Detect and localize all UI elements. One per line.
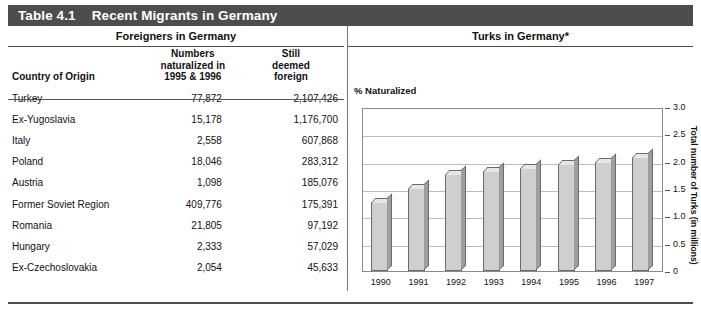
y-tick-mark-2.0	[665, 163, 670, 164]
table-figure-page: Table 4.1 Recent Migrants in Germany For…	[0, 0, 701, 313]
chart-plot-area	[362, 108, 663, 272]
turks-in-germany-chart: % Naturalized 00.51.01.52.02.53.0 Total …	[348, 48, 693, 291]
cell-naturalized: 2,054	[142, 257, 244, 278]
x-tick-1991: 1991	[398, 277, 438, 287]
cell-naturalized: 15,178	[142, 109, 244, 130]
cell-foreign: 1,176,700	[244, 109, 344, 130]
y-tick-mark-2.5	[665, 135, 670, 136]
x-tick-1996: 1996	[587, 277, 627, 287]
y-tick-mark-0.5	[665, 245, 670, 246]
y-tick-mark-1.0	[665, 217, 670, 218]
y-tick-mark-1.5	[665, 190, 670, 191]
migrants-table: Country of Origin Numbers naturalized in…	[8, 48, 344, 278]
cell-naturalized: 18,046	[142, 151, 244, 172]
cell-country: Italy	[8, 130, 142, 151]
cell-foreign: 283,312	[244, 151, 344, 172]
bar-wrap-1997	[632, 109, 654, 271]
left-panel-header: Foreigners in Germany	[8, 26, 344, 46]
cell-foreign: 175,391	[244, 193, 344, 214]
bar-1996	[595, 162, 612, 271]
cell-country: Ex-Czechoslovakia	[8, 257, 142, 278]
cell-foreign: 185,076	[244, 172, 344, 193]
page-title: Recent Migrants in Germany	[92, 8, 278, 23]
x-tick-1990: 1990	[361, 277, 401, 287]
table-header-row: Country of Origin Numbers naturalized in…	[8, 48, 344, 88]
cell-foreign: 97,192	[244, 215, 344, 236]
chart-bars	[363, 109, 662, 271]
x-tick-1993: 1993	[474, 277, 514, 287]
bar-wrap-1996	[595, 109, 617, 271]
table-header-underline	[8, 99, 344, 100]
left-panel-header-label: Foreigners in Germany	[116, 30, 236, 42]
left-header-rule	[8, 46, 344, 47]
cell-naturalized: 1,098	[142, 172, 244, 193]
bar-1991	[408, 188, 425, 271]
table-row: Ex-Czechoslovakia 2,054 45,633	[8, 257, 344, 278]
y-tick-mark-3.0	[665, 108, 670, 109]
cell-country: Austria	[8, 172, 142, 193]
bar-wrap-1991	[408, 109, 430, 271]
bar-wrap-1992	[445, 109, 467, 271]
bar-wrap-1990	[371, 109, 393, 271]
bar-1995	[558, 164, 575, 271]
cell-naturalized: 2,333	[142, 236, 244, 257]
cell-naturalized: 2,558	[142, 130, 244, 151]
x-tick-1997: 1997	[624, 277, 664, 287]
bar-wrap-1994	[520, 109, 542, 271]
bar-1997	[632, 157, 649, 271]
table-row: Romania 21,805 97,192	[8, 215, 344, 236]
table-row: Austria 1,098 185,076	[8, 172, 344, 193]
cell-naturalized: 21,805	[142, 215, 244, 236]
bar-1990	[371, 202, 388, 271]
table-row: Poland 18,046 283,312	[8, 151, 344, 172]
column-header-country: Country of Origin	[8, 48, 142, 88]
right-header-rule	[348, 46, 693, 47]
column-header-naturalized: Numbers naturalized in 1995 & 1996	[142, 48, 244, 88]
y-tick-0: 0	[673, 266, 697, 276]
cell-foreign: 45,633	[244, 257, 344, 278]
table-title-bar: Table 4.1 Recent Migrants in Germany	[8, 5, 693, 26]
chart-y-axis-label: Total number of Turks (in millions)	[689, 126, 699, 265]
table-row: Former Soviet Region 409,776 175,391	[8, 193, 344, 214]
cell-foreign: 57,029	[244, 236, 344, 257]
x-tick-1995: 1995	[549, 277, 589, 287]
bar-1993	[483, 171, 500, 271]
right-panel-header: Turks in Germany*	[348, 26, 693, 46]
table-row: Hungary 2,333 57,029	[8, 236, 344, 257]
cell-country: Hungary	[8, 236, 142, 257]
bar-wrap-1995	[558, 109, 580, 271]
cell-country: Poland	[8, 151, 142, 172]
y-tick-mark-0	[665, 272, 670, 273]
cell-naturalized: 409,776	[142, 193, 244, 214]
cell-country: Former Soviet Region	[8, 193, 142, 214]
table-number: Table 4.1	[18, 8, 76, 23]
table-row: Ex-Yugoslavia 15,178 1,176,700	[8, 109, 344, 130]
x-tick-1994: 1994	[511, 277, 551, 287]
x-tick-1992: 1992	[436, 277, 476, 287]
cell-country: Romania	[8, 215, 142, 236]
y-tick-3.0: 3.0	[673, 102, 697, 112]
bar-1992	[445, 174, 462, 271]
figure-bottom-rule	[8, 302, 693, 304]
table-row: Italy 2,558 607,868	[8, 130, 344, 151]
right-panel-header-label: Turks in Germany*	[472, 30, 569, 42]
cell-country: Ex-Yugoslavia	[8, 109, 142, 130]
cell-foreign: 607,868	[244, 130, 344, 151]
column-header-foreign: Still deemed foreign	[244, 48, 344, 88]
bar-wrap-1993	[483, 109, 505, 271]
chart-annotation-percent-naturalized: % Naturalized	[354, 85, 416, 96]
bar-1994	[520, 168, 537, 271]
